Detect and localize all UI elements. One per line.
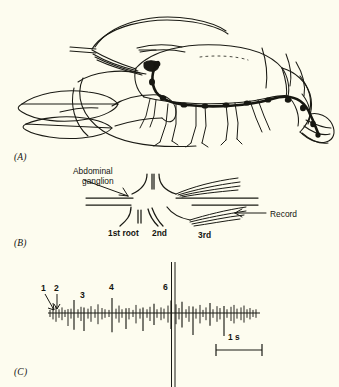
rostrum-icon [137, 45, 185, 52]
first-root-label: 1st root [108, 228, 139, 238]
second-root-label: 2nd [152, 228, 167, 238]
spike-train-trace [50, 298, 256, 336]
spike-1-arrow-icon [45, 294, 54, 310]
spike-label-1: 1 [41, 283, 46, 293]
spike-label-6: 6 [163, 282, 168, 292]
panel-b-label: (B) [14, 238, 27, 248]
abdominal-ganglion-label-line1: Abdominal [73, 166, 113, 176]
spike-label-4: 4 [109, 282, 114, 292]
spike-label-2: 2 [54, 283, 59, 293]
scale-bar-label: 1 s [228, 332, 240, 342]
spike-2-arrow-icon [54, 294, 60, 309]
third-root-label: 3rd [198, 230, 211, 240]
panel-a-lobster-drawing: (A) [0, 0, 339, 152]
abdomen-icon [262, 48, 312, 132]
record-pointer-arrow-icon [235, 209, 266, 217]
scale-bar-icon [216, 344, 262, 356]
third-root-upper-fan-icon [176, 178, 240, 197]
record-label: Record [270, 209, 297, 219]
panel-c-spike-trace: 1 2 3 4 6 1 s (C) [0, 262, 339, 387]
antennule-bundle-icon [70, 47, 142, 75]
abdominal-ganglion-label-line2: ganglion [82, 176, 114, 186]
spike-label-3: 3 [80, 290, 85, 300]
panel-b-ganglion-diagram: Abdominal ganglion Record 1st root 2nd 3… [0, 160, 339, 240]
scientific-figure: (A) [0, 0, 339, 387]
stimulus-artifact-icon [172, 262, 176, 387]
third-root-lower-fan-icon [190, 207, 246, 226]
maxillipeds-icon [140, 99, 156, 128]
panel-c-label: (C) [14, 367, 27, 377]
